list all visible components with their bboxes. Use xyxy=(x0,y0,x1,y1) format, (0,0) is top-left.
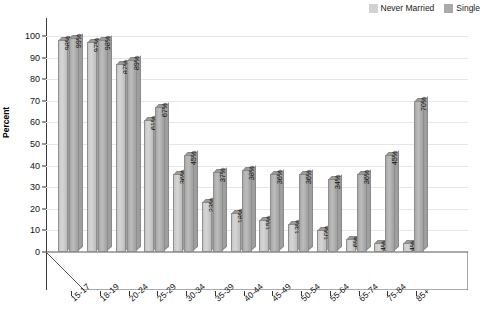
bar-never-married[interactable]: 4% xyxy=(374,243,384,252)
bar-group: 10%34% xyxy=(317,179,338,252)
bar-never-married[interactable]: 10% xyxy=(317,230,327,252)
bar-single[interactable]: 36% xyxy=(270,174,280,252)
bar-side-face xyxy=(108,36,112,250)
bar-front-face xyxy=(184,155,194,252)
bar-value-label: 36% xyxy=(304,170,313,184)
bar-single[interactable]: 37% xyxy=(213,172,223,252)
x-axis-tick-mark xyxy=(71,291,72,296)
x-axis-tick-mark xyxy=(416,291,417,296)
bar-group: 15%36% xyxy=(259,174,280,252)
x-axis-tick-mark xyxy=(186,291,187,296)
legend-item-never-married: Never Married xyxy=(369,3,435,13)
bar-value-label: 38% xyxy=(247,166,256,180)
x-axis-tick-mark xyxy=(387,291,388,296)
bar-single[interactable]: 36% xyxy=(299,174,309,252)
x-axis-labels: 15-1718-1920-2425-2930-3435-3940-4445-49… xyxy=(46,296,468,328)
bar-front-face xyxy=(213,172,223,252)
bar-never-married[interactable]: 18% xyxy=(231,213,241,252)
x-axis-tick-mark xyxy=(129,291,130,296)
x-axis-tick-mark xyxy=(301,291,302,296)
bar-value-label: 37% xyxy=(218,168,227,182)
bar-group: 6%36% xyxy=(346,174,367,252)
bar-single[interactable]: 34% xyxy=(328,179,338,252)
bar-never-married[interactable]: 15% xyxy=(259,220,269,252)
bar-single[interactable]: 36% xyxy=(357,174,367,252)
bar-front-face xyxy=(385,155,395,252)
bar-value-label: 45% xyxy=(390,151,399,165)
y-axis-title: Percent xyxy=(1,107,11,138)
legend-label: Never Married xyxy=(381,3,435,13)
bar-value-label: 70% xyxy=(419,97,428,111)
bar-never-married[interactable]: 23% xyxy=(202,202,212,252)
plot-area: 0102030405060708090100 98%99%97%98%87%89… xyxy=(46,18,468,290)
bar-front-face xyxy=(414,101,424,252)
bar-group: 23%37% xyxy=(202,172,223,252)
bar-front-face xyxy=(328,179,338,252)
bar-single[interactable]: 67% xyxy=(155,107,165,252)
bar-side-face xyxy=(79,34,83,250)
bar-never-married[interactable]: 97% xyxy=(87,42,97,252)
bar-side-face xyxy=(137,56,141,250)
bar-front-face xyxy=(144,120,154,252)
bar-never-married[interactable]: 61% xyxy=(144,120,154,252)
bar-single[interactable]: 98% xyxy=(98,40,108,252)
bar-single[interactable]: 45% xyxy=(184,155,194,252)
bar-front-face xyxy=(116,64,126,252)
bar-never-married[interactable]: 4% xyxy=(403,243,413,252)
x-axis-tick-mark xyxy=(100,291,101,296)
x-axis-tick-label: 35-39 xyxy=(213,296,220,303)
bar-side-face xyxy=(194,151,198,250)
bar-never-married[interactable]: 6% xyxy=(346,239,356,252)
bar-front-face xyxy=(270,174,280,252)
x-axis-tick-label: 15-17 xyxy=(69,296,76,303)
bar-front-face xyxy=(58,40,68,252)
bar-never-married[interactable]: 87% xyxy=(116,64,126,252)
bar-single[interactable]: 70% xyxy=(414,101,424,252)
x-axis-tick-mark xyxy=(157,291,158,296)
bar-never-married[interactable]: 13% xyxy=(288,224,298,252)
bar-single[interactable]: 89% xyxy=(127,60,137,252)
legend-item-single: Single xyxy=(444,3,480,13)
bar-front-face xyxy=(242,170,252,252)
bar-value-label: 98% xyxy=(103,36,112,50)
bar-single[interactable]: 38% xyxy=(242,170,252,252)
bar-group: 4%45% xyxy=(374,155,395,252)
x-axis-tick-label: 65-74 xyxy=(357,296,364,303)
bar-group: 87%89% xyxy=(116,60,137,252)
bar-value-label: 34% xyxy=(333,174,342,188)
bar-group: 98%99% xyxy=(58,38,79,252)
bar-value-label: 89% xyxy=(132,56,141,70)
x-axis-tick-mark xyxy=(244,291,245,296)
bar-group: 18%38% xyxy=(231,170,252,252)
x-axis-tick-label: 45-49 xyxy=(270,296,277,303)
bar-never-married[interactable]: 36% xyxy=(173,174,183,252)
bar-group: 61%67% xyxy=(144,107,165,252)
bars-layer: 98%99%97%98%87%89%61%67%36%45%23%37%18%3… xyxy=(46,18,468,290)
bar-front-face xyxy=(173,174,183,252)
bar-front-face xyxy=(69,38,79,252)
bar-side-face xyxy=(395,151,399,250)
x-axis-tick-label: 75-84 xyxy=(385,296,392,303)
bar-chart: Never Married Single Percent 01020304050… xyxy=(0,0,486,328)
x-axis-tick-label: 50-54 xyxy=(299,296,306,303)
x-axis-tick-mark xyxy=(359,291,360,296)
bar-group: 36%45% xyxy=(173,155,194,252)
bar-front-face xyxy=(98,40,108,252)
bar-value-label: 45% xyxy=(189,151,198,165)
bar-value-label: 36% xyxy=(362,170,371,184)
x-axis-tick-label: 40-44 xyxy=(242,296,249,303)
bar-group: 13%36% xyxy=(288,174,309,252)
legend-swatch-icon xyxy=(444,4,453,13)
bar-single[interactable]: 45% xyxy=(385,155,395,252)
bar-front-face xyxy=(155,107,165,252)
bar-side-face xyxy=(165,103,169,250)
bar-front-face xyxy=(87,42,97,252)
bar-never-married[interactable]: 98% xyxy=(58,40,68,252)
bar-value-label: 99% xyxy=(74,34,83,48)
x-axis-tick-mark xyxy=(272,291,273,296)
x-axis-tick-label: 25-29 xyxy=(155,296,162,303)
x-axis-tick-label: 85+ xyxy=(414,296,421,303)
x-axis-tick-label: 30-34 xyxy=(184,296,191,303)
x-axis-tick-label: 18-19 xyxy=(98,296,105,303)
bar-single[interactable]: 99% xyxy=(69,38,79,252)
